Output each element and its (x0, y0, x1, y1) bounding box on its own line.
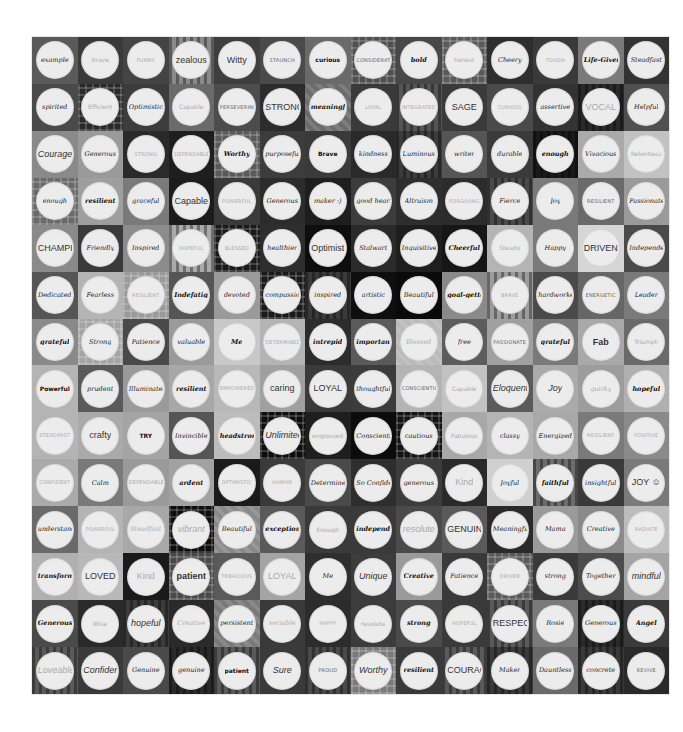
word-label: Optimist (311, 244, 344, 253)
word-label: Steadfast (631, 57, 662, 64)
word-label: headstrong (220, 433, 254, 440)
word-label: TOUGH (546, 58, 565, 63)
word-label: EMPOWERED (220, 386, 254, 391)
word-label: ENERGETIC (586, 293, 616, 298)
word-label: Leader (635, 292, 658, 299)
quilt-square: Passionate (624, 178, 670, 225)
quilt-square: Life-Giver (578, 37, 624, 84)
quilt-square: Patience (442, 553, 488, 600)
word-circle: faithful (536, 464, 574, 502)
quilt-square: patient (169, 553, 215, 600)
word-circle: Cheery (491, 41, 529, 79)
quilt-square: resilient (169, 365, 215, 412)
quilt-square: Luminous (396, 131, 442, 178)
word-label: Blessed (406, 339, 431, 346)
quilt-square: prudent (78, 365, 124, 412)
quilt-square: LOYAL (260, 553, 306, 600)
quilt-square: PERSEVERING (214, 84, 260, 131)
quilt-square: Me (214, 319, 260, 366)
quilt-square: CHAMPION (32, 225, 78, 272)
word-circle: INTEGRATED (400, 88, 438, 126)
word-circle: Loveable (36, 652, 74, 690)
word-circle: Steadfast (127, 511, 165, 549)
word-label: good hearted (356, 198, 390, 205)
word-circle: Conscientious (354, 417, 392, 455)
word-circle: Generous (81, 135, 119, 173)
word-circle: Leader (627, 276, 665, 314)
word-circle: Fierce (491, 182, 529, 220)
quilt-square: STAUNCH (260, 37, 306, 84)
word-circle: Capable (172, 88, 210, 126)
word-circle: Fearless (81, 276, 119, 314)
word-label: resolute (361, 621, 385, 627)
quilt-square: RESPECT (487, 600, 533, 647)
word-circle: Enough (309, 511, 347, 549)
quilt-square: good hearted (351, 178, 397, 225)
word-label: Invincible (175, 433, 208, 440)
word-circle: understanding (36, 511, 74, 549)
quilt-square: Sure (260, 647, 306, 694)
word-label: Capable (179, 104, 204, 110)
quilt-square: healthier (260, 225, 306, 272)
word-label: RADIATE (635, 527, 658, 532)
word-circle: resolute (354, 605, 392, 643)
quilt-square: Relentless (624, 131, 670, 178)
word-label: understanding (38, 526, 72, 533)
word-circle: STEADFAST (36, 417, 74, 455)
quilt-square: Illuminated (123, 365, 169, 412)
word-label: hopeful (632, 386, 660, 393)
word-circle: good hearted (354, 182, 392, 220)
word-label: classy (500, 433, 520, 440)
word-circle: Steady (491, 229, 529, 267)
quilt-square: bold (396, 37, 442, 84)
quilt-square: TRY (123, 412, 169, 459)
word-label: POSITIVE (634, 433, 658, 438)
word-label: Me (322, 573, 333, 580)
word-circle: strong (536, 558, 574, 596)
word-label: Relentless (631, 151, 662, 157)
quilt-square: Beautiful (396, 272, 442, 319)
quilt-square: Generous (78, 131, 124, 178)
word-label: GENUINE (447, 525, 481, 534)
quilt-square: Altruism (396, 178, 442, 225)
quilt-square: Cheerful (442, 225, 488, 272)
word-circle: CONSIDERATE (354, 41, 392, 79)
quilt-square: vibrant (169, 506, 215, 553)
quilt-square: Beautiful (214, 506, 260, 553)
quilt-square: Generous (260, 178, 306, 225)
quilt-square: RESILIENT (578, 178, 624, 225)
word-circle: HOPEFUL (445, 605, 483, 643)
word-label: compassion (265, 292, 299, 299)
quilt-square: Capable (442, 365, 488, 412)
word-label: free (458, 339, 471, 346)
word-label: DEPENDABLE (129, 480, 163, 485)
word-circle: Optimist (309, 229, 347, 267)
quilt-square: OPTIMISTIC (214, 459, 260, 506)
quilt-square: Dedicated (32, 272, 78, 319)
word-label: Maker (499, 667, 520, 674)
word-label: Generous (84, 151, 116, 158)
word-circle: Genuine (127, 652, 165, 690)
word-label: RESPECT (493, 619, 527, 628)
word-circle: persistent (218, 605, 256, 643)
quilt-square: Brave (305, 131, 351, 178)
word-circle: Witty (218, 41, 256, 79)
word-circle: Independent (627, 229, 665, 267)
word-circle: DETERMINED (263, 323, 301, 361)
word-label: hopeful (131, 619, 161, 628)
quilt-square: important (351, 319, 397, 366)
quilt-square: Fab (578, 319, 624, 366)
quilt-square: DETERMINED (260, 319, 306, 366)
word-circle: EMPOWERED (218, 370, 256, 408)
word-label: insightful (585, 480, 616, 487)
quilt-square: CONFIDENT (32, 459, 78, 506)
word-circle: honest (445, 41, 483, 79)
word-circle: generous (400, 464, 438, 502)
quilt-square: Creative (578, 506, 624, 553)
quilt-square: honest (442, 37, 488, 84)
word-circle: curious (309, 41, 347, 79)
word-circle: resilient (400, 652, 438, 690)
quilt-square: DRIVEN (578, 225, 624, 272)
word-circle: sociable (263, 605, 301, 643)
quilt-square: STRONG (123, 131, 169, 178)
